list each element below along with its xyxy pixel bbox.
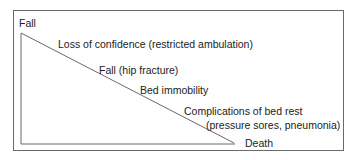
step-complications: Complications of bed rest — [184, 105, 302, 117]
decline-triangle — [0, 0, 359, 160]
step-loss-of-confidence: Loss of confidence (restricted ambulatio… — [58, 38, 253, 50]
start-label: Fall — [19, 17, 36, 29]
step-hip-fracture: Fall (hip fracture) — [99, 64, 178, 76]
step-complications-detail: (pressure sores, pneumonia) — [206, 119, 340, 131]
step-bed-immobility: Bed immobility — [140, 84, 208, 96]
end-label: Death — [245, 137, 273, 149]
